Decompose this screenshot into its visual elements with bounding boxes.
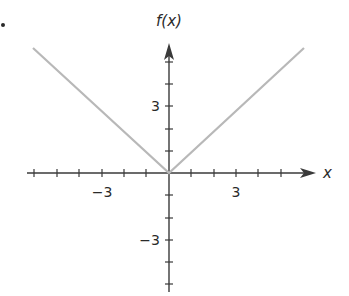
x-axis: −3 3 x xyxy=(27,164,332,200)
y-tick-label-neg3: −3 xyxy=(139,232,160,248)
y-tick-label-pos3: 3 xyxy=(151,98,160,114)
x-tick-label-pos3: 3 xyxy=(232,184,241,200)
function-plot: −3 3 x 3 −3 f(x) xyxy=(0,0,349,296)
y-axis-label: f(x) xyxy=(156,12,182,30)
list-bullet xyxy=(1,23,5,27)
x-axis-label: x xyxy=(322,164,332,182)
x-tick-label-neg3: −3 xyxy=(92,184,113,200)
